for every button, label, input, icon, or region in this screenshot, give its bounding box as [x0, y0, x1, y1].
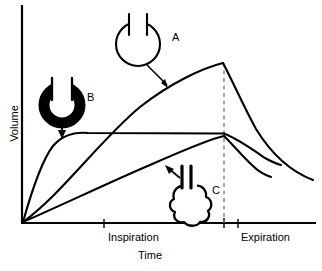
- x-axis-label: Time: [138, 250, 162, 261]
- thick-ring-balloon-icon: [44, 78, 80, 123]
- curve-a-expiration: [223, 63, 313, 180]
- curve-b-expiration: [224, 134, 281, 166]
- open-balloon-icon: [116, 14, 160, 66]
- arrow-icon-a: [147, 65, 168, 88]
- arrow-icon-c: [165, 165, 180, 178]
- curve-label-b: B: [87, 92, 94, 103]
- curve-label-c: C: [212, 185, 220, 196]
- x-axis-phase-label-inspiration: Inspiration: [108, 232, 159, 243]
- curve-label-a: A: [172, 32, 179, 43]
- x-axis-phase-label-expiration: Expiration: [241, 232, 290, 243]
- y-axis-label: Volume: [9, 96, 20, 152]
- volume-time-figure: Volume Time Inspiration Expiration A B C: [0, 0, 322, 271]
